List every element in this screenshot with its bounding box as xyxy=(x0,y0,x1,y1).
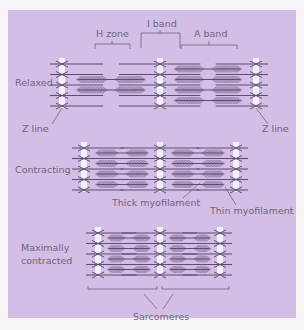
z-line-right-pointer xyxy=(256,108,268,124)
sarcomere-contracting xyxy=(72,142,248,193)
thick-myofilament-label: Thick myofilament xyxy=(111,197,200,208)
thin-myofilament-label: Thin myofilament xyxy=(209,205,294,216)
i-band-bracket xyxy=(141,30,180,48)
a-band-bracket xyxy=(181,41,237,49)
contracting-label: Contracting xyxy=(15,164,71,175)
i-band-label-group: I band xyxy=(141,18,180,48)
sarcomere-maximally-contracted xyxy=(86,227,232,278)
z-line-left-pointer xyxy=(52,108,62,124)
z-line-right-label: Z line xyxy=(262,123,289,134)
maximally-label: Maximally xyxy=(21,242,70,253)
sarcomeres-label: Sarcomeres xyxy=(133,311,189,322)
h-zone-label: H zone xyxy=(96,28,129,39)
a-band-label-group: A band xyxy=(181,28,237,49)
i-band-label: I band xyxy=(147,18,177,29)
contracted-label: contracted xyxy=(21,255,72,266)
z-line-left-label: Z line xyxy=(22,123,49,134)
sarcomere-relaxed xyxy=(50,58,268,109)
relaxed-label: Relaxed xyxy=(15,77,53,88)
sarcomeres-bracket xyxy=(88,286,229,289)
sarcomere-diagram: H zone I band A band Relaxed Z line Z li… xyxy=(0,0,304,330)
h-zone-label-group: H zone xyxy=(95,28,130,49)
sarcomeres-pointers xyxy=(144,294,173,309)
a-band-label: A band xyxy=(194,28,227,39)
h-zone-bracket xyxy=(95,41,130,49)
